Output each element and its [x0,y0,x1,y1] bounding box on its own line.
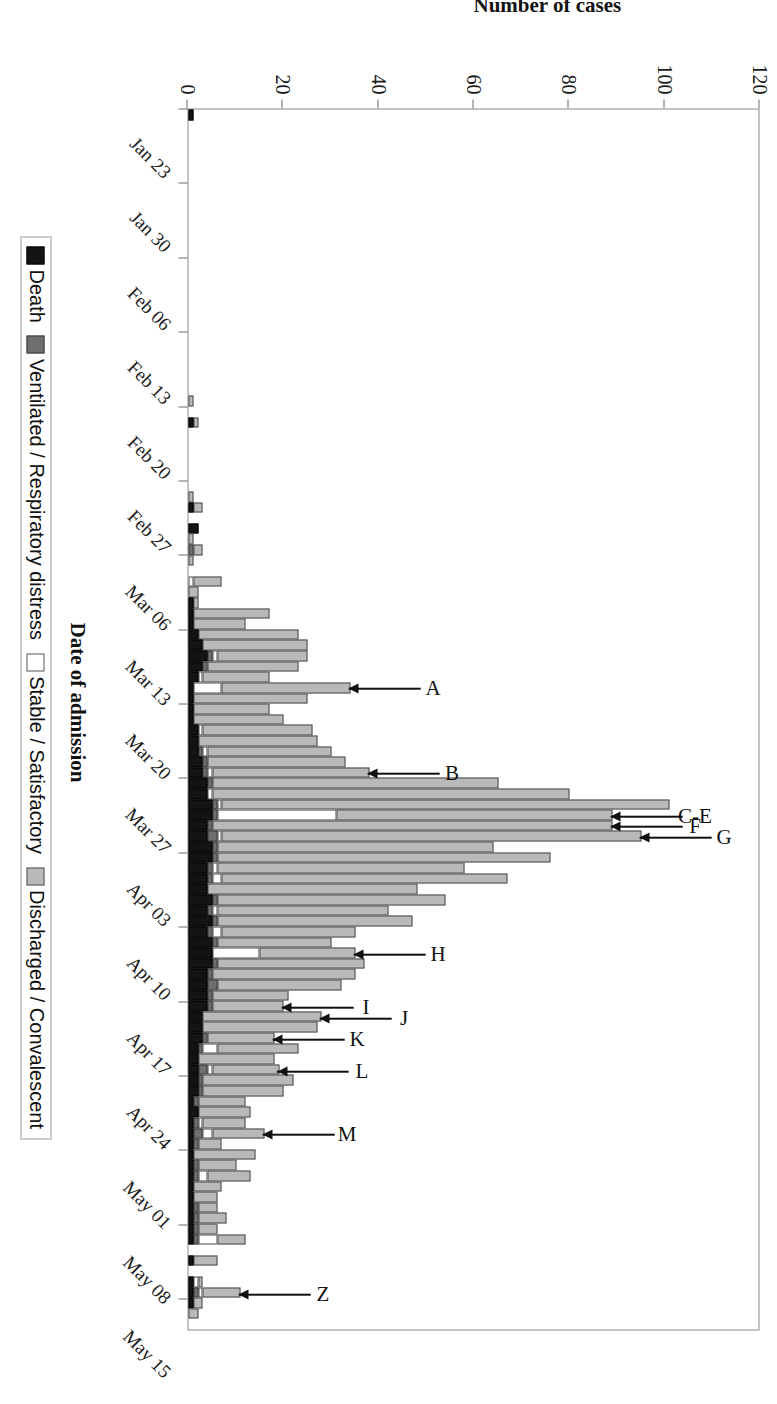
bar-segment-disch [193,597,198,608]
bar-segment-stable [212,873,222,884]
bar-segment-death [188,852,212,863]
bar-segment-vent [212,799,217,810]
bar-column [188,693,758,704]
bar-column [188,873,758,884]
bar-column [188,979,758,990]
y-tick-label: 80 [557,74,580,94]
y-tick [186,99,187,108]
bar-segment-disch [221,926,354,937]
bar-column [188,1276,758,1287]
bar-segment-vent [212,894,217,905]
bar-segment-disch [193,417,198,428]
bar-segment-disch [217,894,446,905]
x-tick [178,480,187,481]
bar-segment-death [188,777,207,788]
bar-segment-disch [193,502,203,513]
bar-segment-death [188,937,212,948]
bar-segment-stable [202,746,207,757]
bar-segment-vent [193,1287,198,1298]
bar-segment-disch [212,1064,279,1075]
legend-label: Death [24,269,47,322]
bar-column [188,1181,758,1192]
annotation-line [272,1038,344,1040]
bar-segment-disch [207,756,345,767]
bar-segment-stable [198,1234,217,1245]
bar-column [188,1308,758,1319]
bar-segment-stable [202,1043,216,1054]
bar-column [188,1234,758,1245]
annotation-line [610,815,682,817]
bar-segment-death [188,1287,193,1298]
x-tick [178,108,187,109]
chart-stage: ABC-EFGHIJKLMZ 020406080100120 Number of… [0,0,777,1404]
bar-segment-death [188,1276,193,1287]
annotation-arrowhead [639,832,649,842]
bar-column [188,1265,758,1276]
bar-column [188,565,758,576]
bar-column [188,947,758,958]
bar-segment-disch [193,1297,203,1308]
bar-segment-death [188,926,207,937]
bar-series-container [188,109,758,1329]
bar-segment-death [188,1117,193,1128]
disch-swatch [27,867,45,885]
x-axis-title: Date of admission [64,0,89,1404]
bar-column [188,852,758,863]
bar-segment-stable [217,830,222,841]
bar-segment-disch [193,1181,222,1192]
bar-column [188,1021,758,1032]
bar-segment-stable [198,1170,208,1181]
annotation-label: Z [317,1281,333,1306]
bar-column [188,1053,758,1064]
bar-segment-disch [198,1202,217,1213]
bar-segment-disch [217,852,551,863]
bar-segment-vent [198,1043,203,1054]
bar-column [188,990,758,1001]
bar-segment-disch [207,1032,274,1043]
bar-segment-disch [202,1085,283,1096]
bar-column [188,915,758,926]
bar-segment-disch [198,1212,227,1223]
x-tick-label: Apr 17 [122,1026,175,1079]
bar-segment-death [188,841,212,852]
bar-column [188,406,758,417]
legend-item: Ventilated / Respiratory distress [24,335,47,639]
bar-column [188,650,758,661]
x-tick-label: May 08 [118,1251,175,1308]
bar-column [188,937,758,948]
bar-column [188,194,758,205]
bar-segment-vent [207,777,212,788]
bar-segment-disch [207,883,417,894]
bar-column [188,311,758,322]
bar-column [188,438,758,449]
bar-column [188,385,758,396]
bar-segment-disch [202,639,307,650]
bar-segment-vent [193,1202,198,1213]
bar-segment-vent [202,756,207,767]
bar-segment-vent [207,905,212,916]
bar-segment-disch [217,937,331,948]
bar-column [188,1287,758,1298]
bar-segment-vent [193,1212,198,1223]
annotation-label: L [355,1058,371,1083]
bar-segment-death [188,1223,193,1234]
bar-segment-vent [207,968,212,979]
y-tick-label: 100 [652,64,675,94]
annotation-line [262,1134,334,1136]
bar-segment-stable [198,1117,203,1128]
bar-segment-death [188,693,193,704]
death-swatch [27,246,45,264]
bar-column [188,1318,758,1329]
bar-segment-death [188,767,202,778]
bar-segment-vent [202,661,207,672]
bar-segment-death [188,820,207,831]
bar-column [188,374,758,385]
x-tick [178,1298,187,1299]
bar-segment-vent [193,1128,203,1139]
bar-segment-vent [212,841,217,852]
bar-column [188,1149,758,1160]
annotation-label: K [349,1026,367,1051]
bar-segment-death [188,618,193,629]
bar-segment-vent [207,1000,212,1011]
bar-segment-disch [188,533,193,544]
